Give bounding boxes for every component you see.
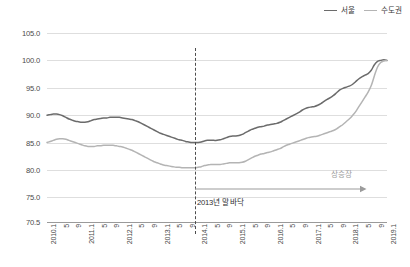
x-axis-tick-label: 9 [264,224,271,228]
legend-label-seoul: 서울 [341,7,355,15]
x-axis-tick-label: 2011.1 [88,224,95,244]
uptrend-annotation-label: 상승장 [331,168,351,179]
y-axis-tick-label: 80.0 [26,165,40,174]
x-axis-tick-label: 9 [378,224,385,228]
series-line-seoul [47,60,387,143]
x-axis-tick-label: 9 [302,224,309,228]
y-axis-tick-label: 105.0 [22,29,40,38]
y-axis-tick-label: 70.5 [26,218,40,227]
legend-swatch-seoul [324,10,337,11]
x-axis: 2010.1592011.1592012.1592013.1592014.159… [47,224,387,267]
x-axis-tick-label: 9 [189,224,196,228]
x-axis-tick-label: 2015.1 [239,224,246,244]
series-lines [47,33,387,222]
x-axis-tick-label: 2019.1 [390,224,397,244]
trough-marker-line [195,48,196,234]
x-axis-tick-label: 5 [365,224,372,228]
x-axis-tick-label: 5 [289,224,296,228]
x-axis-tick-label: 9 [75,224,82,228]
x-axis-tick-label: 2010.1 [50,224,57,244]
x-axis-tick-label: 5 [214,224,221,228]
x-axis-tick-label: 2012.1 [126,224,133,244]
y-axis-tick-label: 90.0 [26,111,40,120]
x-axis-tick-label: 5 [327,224,334,228]
x-axis-tick-label: 5 [63,224,70,228]
x-axis-tick-label: 5 [252,224,259,228]
y-axis-tick-label: 100.0 [22,56,40,65]
x-axis-tick-label: 5 [176,224,183,228]
x-axis-tick-label: 9 [226,224,233,228]
x-axis-tick-label: 5 [138,224,145,228]
y-axis-tick-label: 85.0 [26,138,40,147]
x-axis-tick-label: 2013.1 [164,224,171,244]
x-axis-tick-label: 5 [101,224,108,228]
series-line-capital-region [47,60,387,167]
chart-legend: 서울 수도권 [324,7,402,15]
x-axis-tick-label: 2018.1 [352,224,359,244]
price-index-line-chart: 서울 수도권 105.0100.095.090.085.080.075.070.… [0,0,410,267]
y-axis-tick-label: 95.0 [26,83,40,92]
legend-swatch-capital-region [364,10,377,11]
y-axis-tick-label: 75.0 [26,193,40,202]
trough-annotation-label: 2013년 말 바닥 [197,196,244,207]
y-axis: 105.0100.095.090.085.080.075.070.5 [0,33,44,222]
x-axis-tick-label: 9 [151,224,158,228]
x-axis-tick-label: 2017.1 [315,224,322,244]
plot-area [47,33,387,222]
legend-entry-seoul[interactable]: 서울 [324,7,355,15]
legend-entry-capital-region[interactable]: 수도권 [364,7,402,15]
legend-label-capital-region: 수도권 [381,7,402,15]
x-axis-tick-label: 9 [340,224,347,228]
x-axis-tick-label: 9 [113,224,120,228]
x-axis-tick-label: 2016.1 [277,224,284,244]
x-axis-tick-label: 2014.1 [201,224,208,244]
